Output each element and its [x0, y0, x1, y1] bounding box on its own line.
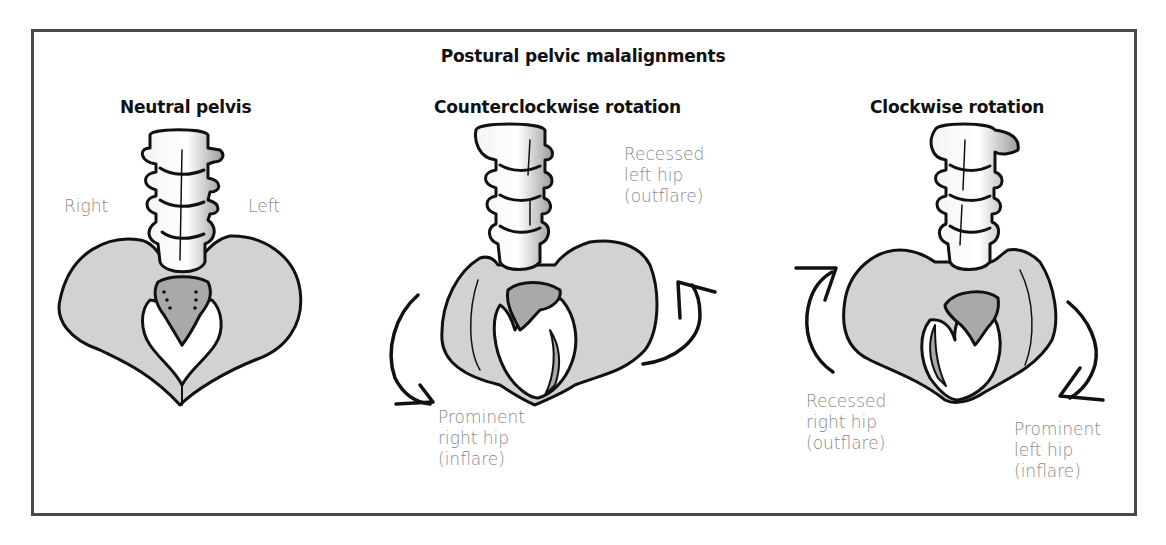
neutral-pelvis-drawing [59, 130, 301, 405]
counterclockwise-pelvis-drawing [391, 124, 715, 405]
clockwise-right-down-arrow [1068, 302, 1096, 398]
clockwise-pelvis-drawing [796, 124, 1103, 402]
pelvis-illustrations [0, 0, 1166, 545]
